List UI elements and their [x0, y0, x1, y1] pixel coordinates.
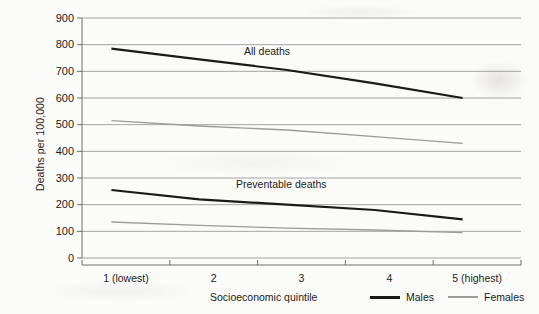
legend-item-females: Females: [448, 291, 524, 303]
legend-label-females: Females: [484, 291, 524, 303]
x-axis-title: Socioeconomic quintile: [210, 291, 317, 303]
legend-swatch-females-icon: [448, 296, 478, 298]
chart-legend: Socioeconomic quintile Males Females: [0, 289, 539, 307]
series-line-females-all-deaths: [111, 121, 462, 144]
annotation-preventable-deaths: Preventable deaths: [236, 178, 326, 190]
legend-item-males: Males: [370, 291, 434, 303]
legend-swatch-males-icon: [370, 296, 400, 299]
line-chart-figure: Deaths per 100,000 900800700600500400300…: [0, 0, 539, 314]
annotation-all-deaths: All deaths: [244, 45, 290, 57]
legend-label-males: Males: [406, 291, 434, 303]
